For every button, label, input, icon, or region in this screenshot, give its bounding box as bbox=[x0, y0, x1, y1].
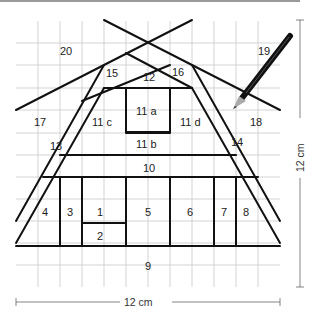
label-8: 8 bbox=[243, 206, 249, 218]
height-label: 12 cm bbox=[294, 143, 306, 172]
label-14: 14 bbox=[231, 136, 243, 148]
label-11b: 11 b bbox=[136, 138, 157, 150]
label-11c: 11 c bbox=[92, 116, 112, 128]
label-18: 18 bbox=[250, 116, 262, 128]
label-17: 17 bbox=[34, 116, 46, 128]
label-19: 19 bbox=[258, 45, 270, 57]
label-10: 10 bbox=[143, 162, 155, 174]
label-5: 5 bbox=[145, 206, 151, 218]
label-20: 20 bbox=[60, 45, 72, 57]
label-12: 12 bbox=[143, 71, 155, 83]
label-11a: 11 a bbox=[136, 105, 157, 117]
label-15: 15 bbox=[106, 67, 118, 79]
label-7: 7 bbox=[221, 206, 227, 218]
label-3: 3 bbox=[67, 206, 73, 218]
label-11d: 11 d bbox=[180, 116, 201, 128]
piece-labels: 20 19 15 12 16 17 11 c 11 a 11 b 11 d 18… bbox=[34, 45, 270, 272]
label-16: 16 bbox=[172, 66, 184, 78]
width-label: 12 cm bbox=[124, 296, 153, 308]
label-13: 13 bbox=[50, 140, 62, 152]
label-9: 9 bbox=[145, 260, 151, 272]
label-4: 4 bbox=[42, 206, 48, 218]
quilt-diagram: 20 19 15 12 16 17 11 c 11 a 11 b 11 d 18… bbox=[0, 0, 314, 315]
label-1: 1 bbox=[97, 206, 103, 218]
label-6: 6 bbox=[187, 206, 193, 218]
label-2: 2 bbox=[97, 230, 103, 242]
